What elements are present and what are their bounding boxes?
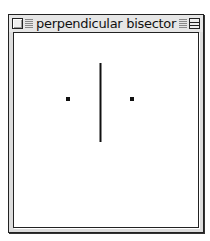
title-bar-stripes-right — [179, 19, 187, 28]
point-a[interactable] — [66, 97, 70, 101]
app-window: perpendicular bisector — [8, 14, 204, 233]
title-bar-stripes-left — [25, 19, 33, 28]
close-box-icon[interactable] — [12, 18, 23, 29]
window-title: perpendicular bisector — [36, 15, 176, 32]
title-bar[interactable]: perpendicular bisector — [9, 15, 203, 32]
zoom-box-icon[interactable] — [189, 18, 200, 29]
point-b[interactable] — [130, 97, 134, 101]
content-area — [13, 32, 199, 228]
drawing-canvas[interactable] — [14, 33, 198, 227]
